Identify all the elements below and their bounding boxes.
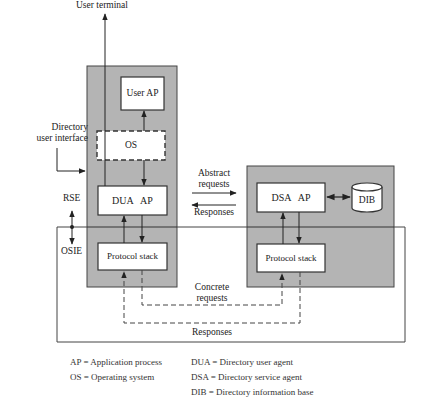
rse-label: RSE	[63, 193, 80, 204]
dsa-ap-label: DSA AP	[257, 192, 325, 203]
directory-user-interface-arrow	[57, 148, 85, 171]
abstract-requests-line2: requests	[188, 179, 240, 190]
protocol-stack-left-label: Protocol stack	[98, 251, 167, 262]
concrete-requests-line1: Concrete	[182, 282, 242, 293]
directory-user-interface-label: Directory user interface	[30, 122, 88, 144]
concrete-requests-label: Concrete requests	[182, 282, 242, 304]
user-ap-label: User AP	[121, 88, 164, 99]
legend-dib: DIB = Directory information base	[191, 385, 314, 400]
abstract-requests-line1: Abstract	[188, 168, 240, 179]
legend-dsa: DSA = Directory service agent	[191, 370, 314, 385]
concrete-responses-label: Responses	[182, 327, 242, 338]
protocol-stack-right-label: Protocol stack	[257, 253, 325, 264]
dib-label: DIB	[352, 195, 382, 206]
legend-right: DUA = Directory user agent DSA = Directo…	[191, 355, 314, 400]
concrete-requests-line2: requests	[182, 293, 242, 304]
legend-ap: AP = Application process	[70, 355, 162, 370]
abstract-responses-label: Responses	[188, 207, 240, 218]
os-label: OS	[97, 140, 165, 151]
directory-user-interface-line2: user interface	[22, 133, 88, 144]
legend-os: OS = Operating system	[70, 370, 162, 385]
directory-user-interface-line1: Directory	[30, 122, 88, 133]
legend-left: AP = Application process OS = Operating …	[70, 355, 162, 385]
osie-label: OSIE	[61, 246, 82, 257]
abstract-requests-label: Abstract requests	[188, 168, 240, 190]
legend-dua: DUA = Directory user agent	[191, 355, 314, 370]
dua-ap-label: DUA AP	[98, 195, 167, 206]
user-terminal-label: User terminal	[76, 0, 128, 11]
